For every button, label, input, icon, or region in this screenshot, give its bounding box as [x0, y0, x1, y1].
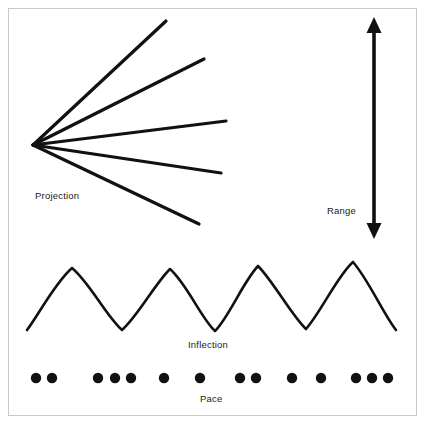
range-label: Range — [327, 206, 356, 216]
projection-ray-3 — [33, 121, 226, 145]
pace-dot — [126, 373, 136, 383]
inflection-wave-path — [27, 262, 396, 331]
pace-dot — [110, 373, 120, 383]
projection-ray-1 — [33, 21, 166, 145]
projection-ray-2 — [33, 59, 204, 145]
pace-dot — [195, 373, 205, 383]
pace-dot — [351, 373, 361, 383]
range-arrowhead-up-icon — [367, 17, 382, 33]
pace-dot — [287, 373, 297, 383]
range-double-arrow — [367, 17, 382, 239]
pace-dot — [47, 373, 57, 383]
pace-dot — [235, 373, 245, 383]
pace-dot — [251, 373, 261, 383]
range-arrowhead-down-icon — [367, 223, 382, 239]
diagram-root: Projection Range Inflection Pace — [0, 0, 427, 426]
pace-label: Pace — [200, 394, 222, 404]
pace-dot — [316, 373, 326, 383]
pace-dot — [383, 373, 393, 383]
pace-dot — [159, 373, 169, 383]
pace-dot — [93, 373, 103, 383]
projection-label: Projection — [35, 191, 79, 201]
pace-dot-row — [31, 373, 393, 383]
inflection-wave — [27, 262, 396, 331]
inflection-label: Inflection — [188, 340, 228, 350]
pace-dot — [31, 373, 41, 383]
diagram-canvas — [0, 0, 427, 426]
pace-dot — [367, 373, 377, 383]
